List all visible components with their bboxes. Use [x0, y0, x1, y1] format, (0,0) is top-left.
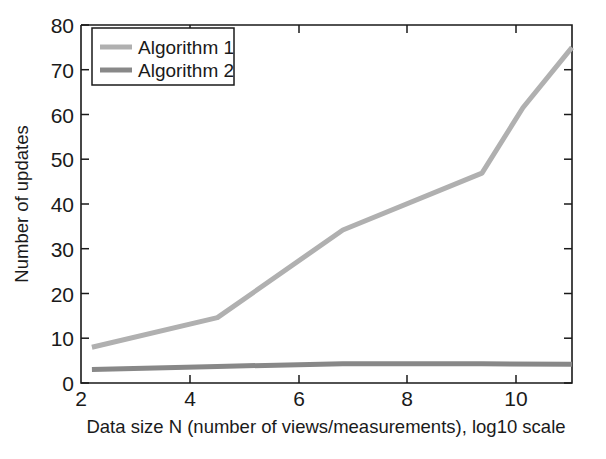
legend-label-algorithm-2: Algorithm 2 — [138, 60, 234, 81]
y-tick-label: 70 — [51, 59, 74, 82]
y-tick-label: 50 — [51, 148, 74, 171]
y-tick-label: 0 — [62, 372, 74, 395]
x-tick-label: 6 — [293, 387, 305, 410]
legend-label-algorithm-1: Algorithm 1 — [138, 37, 234, 58]
y-tick-labels: 0 10 20 30 40 50 60 70 80 — [51, 14, 74, 395]
line-chart: 0 10 20 30 40 50 60 70 80 2 4 6 8 10 Dat… — [0, 0, 606, 459]
figure-container: 0 10 20 30 40 50 60 70 80 2 4 6 8 10 Dat… — [0, 0, 606, 459]
y-tick-label: 40 — [51, 193, 74, 216]
y-tick-label: 10 — [51, 327, 74, 350]
y-axis-title: Number of updates — [11, 125, 32, 282]
y-tick-label: 60 — [51, 104, 74, 127]
x-axis-title: Data size N (number of views/measurement… — [86, 416, 565, 437]
legend: Algorithm 1 Algorithm 2 — [92, 28, 234, 85]
y-tick-label: 80 — [51, 14, 74, 37]
y-tick-label: 30 — [51, 238, 74, 261]
x-tick-label: 4 — [184, 387, 196, 410]
x-tick-label: 10 — [504, 387, 527, 410]
x-tick-label: 8 — [401, 387, 413, 410]
x-tick-label: 2 — [75, 387, 87, 410]
y-tick-label: 20 — [51, 283, 74, 306]
